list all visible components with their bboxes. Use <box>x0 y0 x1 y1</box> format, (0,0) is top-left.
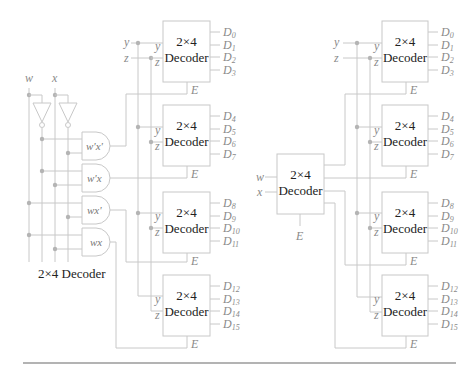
svg-text:D3: D3 <box>222 63 236 78</box>
right-input-x-label: x <box>256 185 263 199</box>
inverter-x <box>59 103 77 128</box>
svg-text:Decoder: Decoder <box>278 183 323 198</box>
svg-text:z: z <box>373 139 379 153</box>
svg-text:z: z <box>154 308 160 322</box>
and-gate-1-label: w'x' <box>86 140 104 152</box>
svg-text:Decoder: Decoder <box>164 221 209 236</box>
left-decoder-3: 2×4 Decoder y z E D8 D9 D10 D11 <box>154 192 240 268</box>
svg-text:y: y <box>154 123 161 137</box>
and-gate-1: w'x' <box>82 132 110 160</box>
svg-text:Decoder: Decoder <box>164 50 209 65</box>
left-decoder-2: 2×4 Decoder y z E D4 D5 D6 D7 <box>154 105 237 181</box>
svg-text:y: y <box>154 209 161 223</box>
svg-text:E: E <box>190 83 199 97</box>
left-caption: 2×4 Decoder <box>38 266 106 281</box>
right-decoder-2: 2×4 Decoder y z E D4 D5 D6 D7 <box>373 105 455 181</box>
svg-text:y: y <box>373 39 380 53</box>
input-y-label: y <box>123 35 130 49</box>
svg-text:Decoder: Decoder <box>383 221 428 236</box>
right-input-w-label: w <box>256 170 264 184</box>
svg-text:z: z <box>154 55 160 69</box>
svg-text:E: E <box>190 167 199 181</box>
svg-text:D3: D3 <box>440 63 454 78</box>
svg-text:2×4: 2×4 <box>176 205 197 220</box>
right-decoder-1: 2×4 Decoder y z E D0 D1 D2 D3 <box>373 21 454 97</box>
svg-text:z: z <box>154 139 160 153</box>
left-decoder-1: 2×4 Decoder y z E D0 D1 D2 D3 <box>154 21 236 97</box>
svg-text:D11: D11 <box>222 234 239 249</box>
svg-text:E: E <box>190 254 199 268</box>
svg-text:2×4: 2×4 <box>176 288 197 303</box>
svg-text:y: y <box>154 292 161 306</box>
svg-text:E: E <box>190 337 199 351</box>
svg-text:y: y <box>373 292 380 306</box>
svg-text:2×4: 2×4 <box>176 34 197 49</box>
and-gate-3: wx' <box>82 196 110 224</box>
and-gate-4: wx <box>82 228 110 256</box>
svg-text:2×4: 2×4 <box>176 118 197 133</box>
right-input-y-label: y <box>333 35 340 49</box>
svg-text:z: z <box>154 225 160 239</box>
svg-text:z: z <box>373 55 379 69</box>
svg-text:Decoder: Decoder <box>164 304 209 319</box>
svg-text:E: E <box>409 167 418 181</box>
svg-text:Decoder: Decoder <box>164 134 209 149</box>
svg-text:z: z <box>373 308 379 322</box>
svg-text:D15: D15 <box>222 317 240 332</box>
svg-text:Decoder: Decoder <box>383 304 428 319</box>
input-x-label: x <box>51 71 58 85</box>
svg-text:2×4: 2×4 <box>395 118 416 133</box>
svg-text:y: y <box>154 39 161 53</box>
input-z-label: z <box>123 51 129 65</box>
svg-text:E: E <box>295 229 304 243</box>
left-decoder-4: 2×4 Decoder y z E D12 D13 D14 D15 <box>154 275 240 351</box>
and-gate-2-label: w'x <box>87 172 102 184</box>
decoder-diagram: w x y z <box>0 0 476 376</box>
input-w-label: w <box>25 71 33 85</box>
svg-text:E: E <box>409 83 418 97</box>
svg-text:E: E <box>409 254 418 268</box>
right-decoder-3: 2×4 Decoder y z E D8 D9 D10 D11 <box>373 192 458 268</box>
center-decoder: 2×4 Decoder E <box>277 154 324 243</box>
and-gate-4-label: wx <box>90 236 102 248</box>
svg-text:D7: D7 <box>440 147 455 162</box>
svg-text:Decoder: Decoder <box>383 134 428 149</box>
svg-text:Decoder: Decoder <box>383 50 428 65</box>
svg-text:2×4: 2×4 <box>290 167 311 182</box>
svg-text:D7: D7 <box>222 147 237 162</box>
svg-text:2×4: 2×4 <box>395 288 416 303</box>
svg-text:D11: D11 <box>440 234 457 249</box>
right-decoder-4: 2×4 Decoder y z E D12 D13 D14 D15 <box>373 275 458 351</box>
and-gate-3-label: wx' <box>87 204 102 216</box>
svg-text:E: E <box>409 337 418 351</box>
svg-text:y: y <box>373 123 380 137</box>
svg-text:2×4: 2×4 <box>395 205 416 220</box>
inverter-w <box>33 103 51 128</box>
and-gate-2: w'x <box>82 164 110 192</box>
svg-text:D15: D15 <box>440 317 458 332</box>
svg-text:z: z <box>373 225 379 239</box>
svg-text:2×4: 2×4 <box>395 34 416 49</box>
svg-text:y: y <box>373 209 380 223</box>
right-input-z-label: z <box>333 51 339 65</box>
